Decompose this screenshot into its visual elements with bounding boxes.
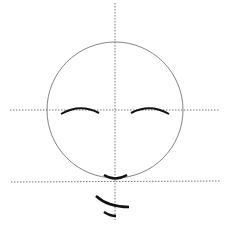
mouth-stroke xyxy=(104,175,127,179)
lower-tick-stroke xyxy=(104,212,116,216)
chin-guide-line xyxy=(11,181,220,182)
face-construction-diagram xyxy=(0,0,229,232)
right-eye-stroke xyxy=(131,108,169,114)
left-eye-stroke xyxy=(61,108,99,114)
diagram-canvas xyxy=(0,0,229,232)
chin-curve-stroke xyxy=(96,196,129,207)
